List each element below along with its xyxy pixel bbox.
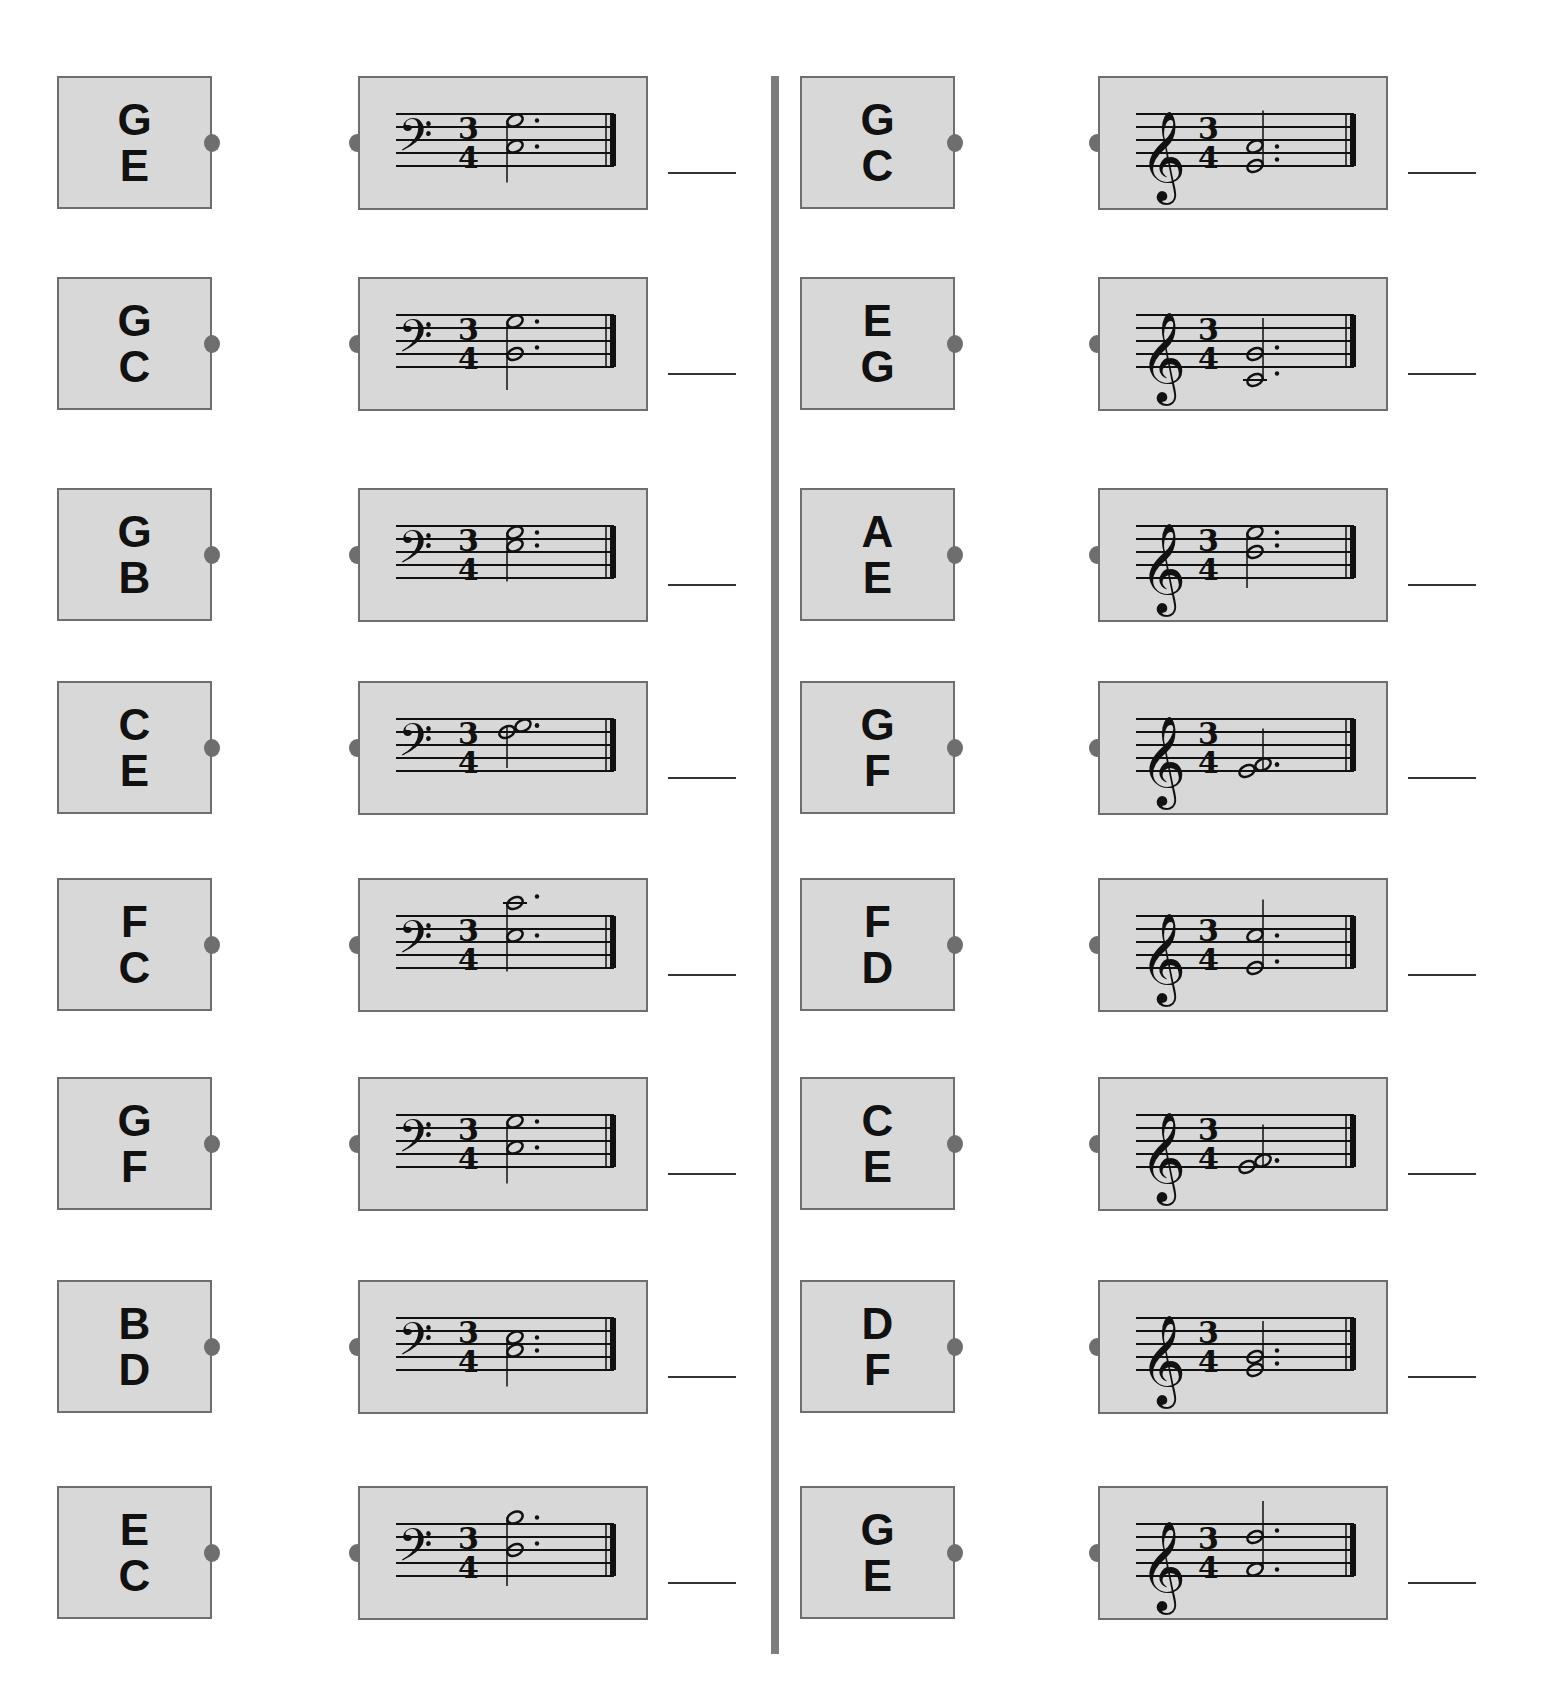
letter-card[interactable]: GF [800, 681, 955, 814]
answer-blank[interactable] [1408, 1173, 1476, 1175]
answer-blank[interactable] [668, 777, 736, 779]
connector-dot-start[interactable] [204, 936, 220, 954]
staff-card[interactable]: 𝄢34 [358, 1077, 648, 1211]
connector-dot-start[interactable] [204, 335, 220, 353]
staff-card[interactable]: 𝄞34 [1098, 681, 1388, 815]
letter-card[interactable]: GC [800, 76, 955, 209]
connector-dot-start[interactable] [947, 546, 963, 564]
time-signature-bottom: 4 [458, 1344, 479, 1379]
time-signature-bottom: 4 [1198, 942, 1219, 977]
time-signature-bottom: 4 [1198, 1550, 1219, 1585]
bass-clef-icon: 𝄢 [398, 109, 433, 172]
bottom-letter: C [119, 1553, 151, 1599]
staff-card[interactable]: 𝄞34 [1098, 1280, 1388, 1414]
time-signature-bottom: 4 [1198, 341, 1219, 376]
time-signature-bottom: 4 [458, 1550, 479, 1585]
connector-dot-start[interactable] [947, 739, 963, 757]
letter-card[interactable]: CE [57, 681, 212, 814]
top-letter: E [863, 298, 892, 344]
answer-blank[interactable] [668, 1582, 736, 1584]
connector-dot-start[interactable] [204, 1544, 220, 1562]
staff-card[interactable]: 𝄢34 [358, 76, 648, 210]
letter-card[interactable]: GC [57, 277, 212, 410]
treble-clef-icon: 𝄞 [1140, 715, 1186, 810]
connector-dot-start[interactable] [204, 134, 220, 152]
staff-card[interactable]: 𝄞34 [1098, 1077, 1388, 1211]
bottom-letter: G [860, 344, 894, 390]
answer-blank[interactable] [1408, 373, 1476, 375]
answer-blank[interactable] [1408, 584, 1476, 586]
letter-card[interactable]: EG [800, 277, 955, 410]
answer-blank[interactable] [668, 584, 736, 586]
bass-clef-icon: 𝄢 [398, 1313, 433, 1376]
letter-card[interactable]: AE [800, 488, 955, 621]
letter-card[interactable]: FC [57, 878, 212, 1011]
answer-blank[interactable] [668, 172, 736, 174]
answer-blank[interactable] [1408, 777, 1476, 779]
bottom-letter: F [864, 1347, 891, 1393]
connector-dot-start[interactable] [947, 335, 963, 353]
bottom-letter: E [863, 555, 892, 601]
time-signature-bottom: 4 [1198, 1344, 1219, 1379]
top-letter: G [860, 702, 894, 748]
top-letter: C [119, 702, 151, 748]
bottom-letter: C [119, 945, 151, 991]
answer-blank[interactable] [668, 1173, 736, 1175]
treble-clef-icon: 𝄞 [1140, 912, 1186, 1007]
letter-card[interactable]: GF [57, 1077, 212, 1210]
treble-clef-icon: 𝄞 [1140, 1111, 1186, 1206]
bottom-letter: E [120, 143, 149, 189]
answer-blank[interactable] [1408, 974, 1476, 976]
answer-blank[interactable] [1408, 1582, 1476, 1584]
bass-clef-icon: 𝄢 [398, 911, 433, 974]
staff-card[interactable]: 𝄞34 [1098, 1486, 1388, 1620]
connector-dot-start[interactable] [947, 1338, 963, 1356]
connector-dot-start[interactable] [947, 1544, 963, 1562]
letter-card[interactable]: FD [800, 878, 955, 1011]
bass-clef-icon: 𝄢 [398, 1110, 433, 1173]
time-signature-bottom: 4 [458, 1141, 479, 1176]
letter-card[interactable]: BD [57, 1280, 212, 1413]
connector-dot-start[interactable] [204, 1338, 220, 1356]
connector-dot-start[interactable] [947, 1135, 963, 1153]
letter-card[interactable]: GE [57, 76, 212, 209]
answer-blank[interactable] [668, 373, 736, 375]
connector-dot-start[interactable] [204, 739, 220, 757]
bottom-letter: C [862, 143, 894, 189]
staff-card[interactable]: 𝄞34 [1098, 76, 1388, 210]
top-letter: G [117, 1098, 151, 1144]
letter-card[interactable]: EC [57, 1486, 212, 1619]
staff-card[interactable]: 𝄞34 [1098, 488, 1388, 622]
staff-card[interactable]: 𝄢34 [358, 681, 648, 815]
treble-clef-icon: 𝄞 [1140, 311, 1186, 406]
staff-card[interactable]: 𝄞34 [1098, 878, 1388, 1012]
staff-card[interactable]: 𝄢34 [358, 1280, 648, 1414]
answer-blank[interactable] [1408, 172, 1476, 174]
staff-card[interactable]: 𝄢34 [358, 277, 648, 411]
time-signature-bottom: 4 [1198, 745, 1219, 780]
staff-card[interactable]: 𝄞34 [1098, 277, 1388, 411]
connector-dot-start[interactable] [947, 134, 963, 152]
bottom-letter: B [119, 555, 151, 601]
top-letter: D [862, 1301, 894, 1347]
letter-card[interactable]: DF [800, 1280, 955, 1413]
letter-card[interactable]: GE [800, 1486, 955, 1619]
time-signature-bottom: 4 [1198, 552, 1219, 587]
connector-dot-start[interactable] [947, 936, 963, 954]
staff-card[interactable]: 𝄢34 [358, 488, 648, 622]
answer-blank[interactable] [1408, 1376, 1476, 1378]
top-letter: G [860, 97, 894, 143]
bass-clef-icon: 𝄢 [398, 310, 433, 373]
letter-card[interactable]: CE [800, 1077, 955, 1210]
top-letter: F [121, 899, 148, 945]
top-letter: G [117, 97, 151, 143]
staff-card[interactable]: 𝄢34 [358, 878, 648, 1012]
bottom-letter: F [864, 748, 891, 794]
letter-card[interactable]: GB [57, 488, 212, 621]
top-letter: A [862, 509, 894, 555]
connector-dot-start[interactable] [204, 546, 220, 564]
answer-blank[interactable] [668, 974, 736, 976]
staff-card[interactable]: 𝄢34 [358, 1486, 648, 1620]
connector-dot-start[interactable] [204, 1135, 220, 1153]
answer-blank[interactable] [668, 1376, 736, 1378]
